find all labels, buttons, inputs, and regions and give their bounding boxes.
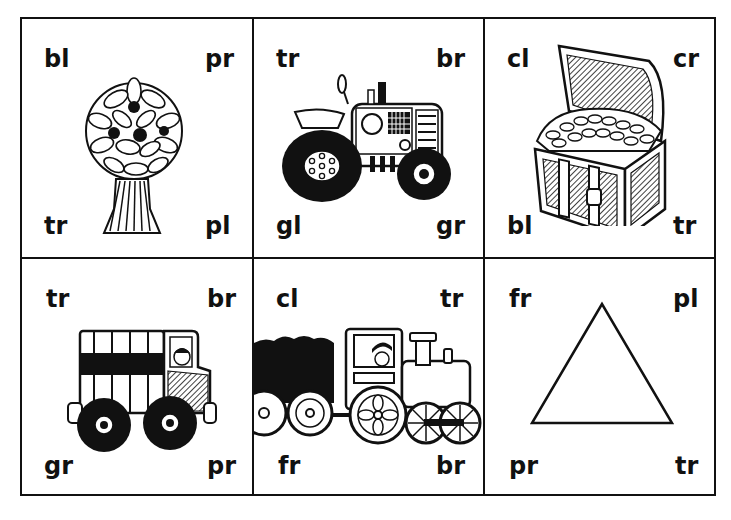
label-bottom-right: br <box>436 454 465 478</box>
label-bottom-left: pr <box>509 454 538 478</box>
label-bottom-right: pr <box>207 454 236 478</box>
treasure-chest-icon <box>529 41 674 226</box>
tree-icon <box>78 69 190 239</box>
label-top-left: cl <box>276 287 298 311</box>
label-bottom-right: tr <box>673 214 696 238</box>
label-top-right: br <box>207 287 236 311</box>
label-top-right: cr <box>673 47 699 71</box>
train-icon <box>254 323 483 448</box>
card-tree: bl pr tr pl <box>22 19 252 257</box>
label-top-left: bl <box>44 47 69 71</box>
label-top-right: pr <box>205 47 234 71</box>
label-bottom-left: fr <box>278 454 300 478</box>
tractor-icon <box>280 74 452 204</box>
card-truck: tr br gr pr <box>22 259 252 496</box>
card-triangle: fr pl pr tr <box>485 259 716 496</box>
label-bottom-right: gr <box>436 214 465 238</box>
label-top-left: tr <box>46 287 69 311</box>
label-top-left: cl <box>507 47 529 71</box>
card-tractor: tr br gl gr <box>254 19 483 257</box>
label-top-left: tr <box>276 47 299 71</box>
label-bottom-left: gl <box>276 214 301 238</box>
label-bottom-left: tr <box>44 214 67 238</box>
label-top-right: br <box>436 47 465 71</box>
label-top-right: tr <box>440 287 463 311</box>
truck-icon <box>62 327 218 455</box>
label-bottom-right: tr <box>675 454 698 478</box>
card-train: cl tr fr br <box>254 259 483 496</box>
label-bottom-right: pl <box>205 214 230 238</box>
label-top-right: pl <box>673 287 698 311</box>
worksheet: bl pr tr pl <box>0 0 731 520</box>
label-top-left: fr <box>509 287 531 311</box>
triangle-icon <box>529 301 675 427</box>
label-bottom-left: gr <box>44 454 73 478</box>
card-treasure-chest: cl cr bl tr <box>485 19 716 257</box>
